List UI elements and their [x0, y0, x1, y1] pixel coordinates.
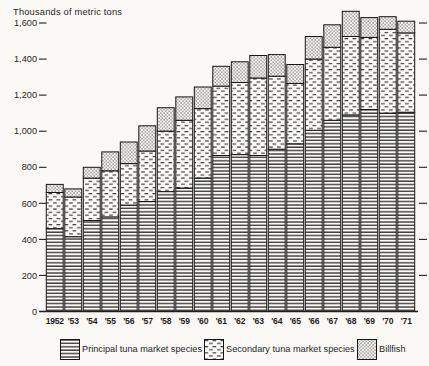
- x-tick-label-66: '66: [308, 316, 319, 326]
- x-tick-label-67: '67: [327, 316, 338, 326]
- bar-segment-1971-dashes: [398, 33, 415, 112]
- bar-segment-1963-dashes: [250, 78, 267, 156]
- bar-segment-1958-dashes: [157, 131, 174, 191]
- bar-segment-1953-hlines: [65, 237, 82, 312]
- bar-segment-1967-dashes: [324, 47, 341, 120]
- y-tick-label: 400: [22, 235, 37, 245]
- y-tick-label: 1,200: [14, 90, 37, 100]
- y-tick-label: 1,400: [14, 54, 37, 64]
- bar-segment-1957-dashes: [139, 151, 156, 202]
- x-tick-label-53: '53: [68, 316, 79, 326]
- bar-segment-1964-hlines: [268, 149, 285, 311]
- bar-segment-1971-dots: [398, 21, 415, 33]
- bar-segment-1963-dots: [250, 56, 267, 79]
- bar-segment-1967-hlines: [324, 120, 341, 311]
- bar-segment-1956-dots: [120, 142, 137, 164]
- x-tick-label-58: '58: [160, 316, 171, 326]
- x-tick-label-63: '63: [253, 316, 264, 326]
- x-tick-label-64: '64: [271, 316, 282, 326]
- x-tick-label-62: '62: [234, 316, 245, 326]
- bar-segment-1961-hlines: [213, 156, 230, 312]
- bar-segment-1963-hlines: [250, 156, 267, 312]
- y-tick-label: 200: [22, 271, 37, 281]
- x-tick-label-59: '59: [179, 316, 190, 326]
- bar-segment-1952-dots: [46, 184, 63, 192]
- x-tick-label-54: '54: [86, 316, 97, 326]
- bar-segment-1959-dots: [176, 97, 193, 120]
- bar-segment-1969-dashes: [361, 37, 378, 109]
- y-tick-label: 600: [22, 199, 37, 209]
- bar-segment-1960-dots: [194, 87, 211, 109]
- bar-segment-1968-dashes: [342, 37, 359, 115]
- bar-segment-1966-dashes: [305, 59, 322, 130]
- x-tick-label-61: '61: [216, 316, 227, 326]
- bar-segment-1960-dashes: [194, 109, 211, 178]
- bar-segment-1965-hlines: [287, 144, 304, 312]
- y-tick-label: 1,000: [14, 126, 37, 136]
- bar-segment-1954-dashes: [83, 178, 100, 220]
- bar-segment-1961-dashes: [213, 86, 230, 155]
- bar-segment-1954-hlines: [83, 220, 100, 311]
- bar-segment-1970-dashes: [379, 29, 396, 113]
- bar-segment-1957-hlines: [139, 202, 156, 312]
- bar-segment-1956-dashes: [120, 164, 137, 206]
- bar-segment-1957-dots: [139, 126, 156, 151]
- x-tick-label-55: '55: [105, 316, 116, 326]
- x-tick-label-69: '69: [364, 316, 375, 326]
- bar-segment-1959-hlines: [176, 188, 193, 312]
- bar-segment-1953-dots: [65, 189, 82, 197]
- bar-segment-1960-hlines: [194, 178, 211, 311]
- x-tick-label-56: '56: [123, 316, 134, 326]
- bar-segment-1952-hlines: [46, 229, 63, 312]
- x-tick-label-68: '68: [345, 316, 356, 326]
- x-tick-label-70: '70: [382, 316, 393, 326]
- bar-segment-1962-hlines: [231, 155, 248, 312]
- bar-segment-1955-hlines: [102, 217, 119, 312]
- x-tick-label-65: '65: [290, 316, 301, 326]
- bar-segment-1958-hlines: [157, 192, 174, 312]
- bar-segment-1965-dots: [287, 65, 304, 84]
- bar-segment-1969-dots: [361, 18, 378, 38]
- x-tick-label-57: '57: [142, 316, 153, 326]
- x-tick-label-71: '71: [401, 316, 412, 326]
- bar-segment-1966-hlines: [305, 130, 322, 311]
- stacked-bar-chart: 02004006008001,0001,2001,4001,6001952'53…: [0, 0, 429, 366]
- bar-segment-1953-dashes: [65, 197, 82, 237]
- bar-segment-1962-dashes: [231, 83, 248, 155]
- bar-segment-1958-dots: [157, 108, 174, 131]
- bar-segment-1961-dots: [213, 66, 230, 86]
- bar-segment-1965-dashes: [287, 83, 304, 143]
- y-tick-label: 1,600: [14, 18, 37, 28]
- bar-segment-1956-hlines: [120, 205, 137, 311]
- x-tick-label-1952: 1952: [46, 316, 65, 326]
- bar-segment-1967-dots: [324, 25, 341, 48]
- bar-segment-1955-dots: [102, 152, 119, 171]
- bar-segment-1952-dashes: [46, 193, 63, 229]
- bar-segment-1966-dots: [305, 37, 322, 60]
- bar-segment-1968-hlines: [342, 115, 359, 312]
- bar-segment-1962-dots: [231, 62, 248, 83]
- y-tick-label: 800: [22, 162, 37, 172]
- bar-segment-1964-dots: [268, 55, 285, 77]
- scanned-stacked-bar-chart-page: Thousands of metric tons 02004006008001,…: [0, 0, 429, 366]
- bar-segment-1964-dashes: [268, 76, 285, 149]
- bar-segment-1969-hlines: [361, 110, 378, 312]
- bar-segment-1955-dashes: [102, 171, 119, 217]
- y-tick-label: 0: [32, 307, 37, 317]
- bar-segment-1970-hlines: [379, 113, 396, 311]
- bar-segment-1970-dots: [379, 17, 396, 30]
- bar-segment-1971-hlines: [398, 112, 415, 311]
- bar-segment-1959-dashes: [176, 120, 193, 188]
- bar-segment-1968-dots: [342, 11, 359, 36]
- x-tick-label-60: '60: [197, 316, 208, 326]
- bar-segment-1954-dots: [83, 167, 100, 178]
